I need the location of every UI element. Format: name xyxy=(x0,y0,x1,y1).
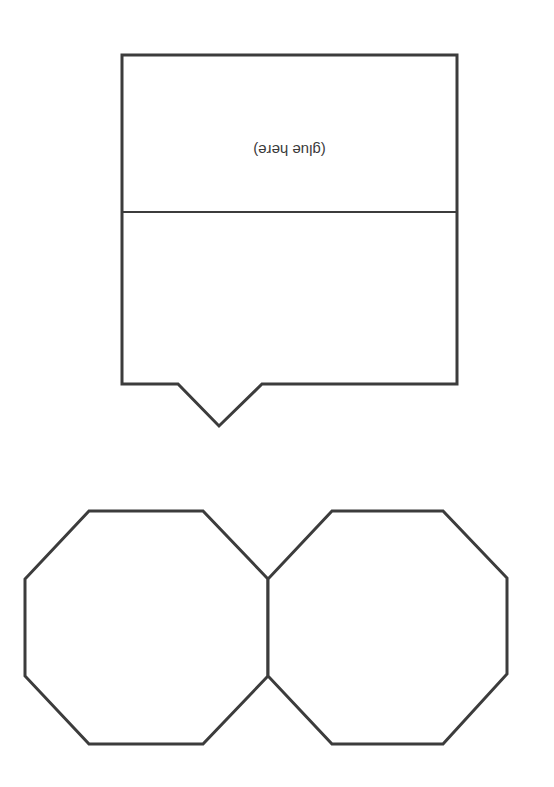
left-octagon xyxy=(25,511,268,744)
glue-panel-outline xyxy=(122,55,457,426)
glue-here-label: (glue here) xyxy=(121,142,458,159)
right-octagon xyxy=(268,511,507,744)
template-canvas xyxy=(0,0,554,787)
